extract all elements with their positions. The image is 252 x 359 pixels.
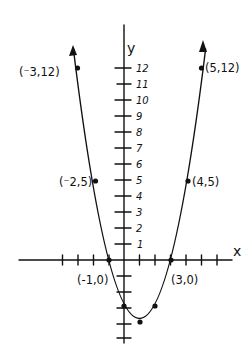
y-axis-label: y bbox=[127, 40, 135, 56]
svg-text:3: 3 bbox=[136, 207, 142, 218]
svg-text:11: 11 bbox=[136, 79, 149, 90]
label-5-12: (5,12) bbox=[205, 61, 240, 75]
label-4-5: (4,5) bbox=[192, 175, 219, 189]
label-m3-12: (⁻3,12) bbox=[19, 65, 60, 79]
label-m2-5: (⁻2,5) bbox=[59, 175, 92, 189]
svg-text:10: 10 bbox=[136, 95, 149, 106]
y-axis-ticks bbox=[115, 68, 131, 338]
point-5-12 bbox=[199, 65, 204, 70]
arrow-left-icon bbox=[69, 45, 77, 56]
svg-text:12: 12 bbox=[136, 63, 149, 74]
svg-text:7: 7 bbox=[136, 143, 143, 154]
point-4-5 bbox=[185, 178, 190, 183]
point-0-m3 bbox=[121, 303, 126, 308]
point-m1-0 bbox=[106, 257, 111, 262]
y-tick-labels: 12 11 10 9 8 7 6 5 4 3 2 1 bbox=[136, 63, 149, 250]
svg-text:2: 2 bbox=[136, 223, 142, 234]
point-m3-12 bbox=[75, 65, 80, 70]
parabola-graph: y x 12 11 10 9 8 7 6 5 4 3 2 1 (⁻3,12) (… bbox=[0, 0, 252, 359]
point-2-m3 bbox=[152, 303, 157, 308]
svg-text:8: 8 bbox=[136, 127, 142, 138]
label-m1-0: (-1,0) bbox=[77, 273, 108, 287]
svg-text:9: 9 bbox=[136, 111, 142, 122]
svg-text:6: 6 bbox=[136, 159, 142, 170]
x-axis-label: x bbox=[233, 243, 241, 259]
point-m2-5 bbox=[93, 178, 98, 183]
point-3-0 bbox=[168, 257, 173, 262]
label-3-0: (3,0) bbox=[171, 273, 198, 287]
point-1-m4 bbox=[137, 319, 142, 324]
svg-text:4: 4 bbox=[136, 191, 142, 202]
arrow-right-icon bbox=[199, 40, 207, 52]
svg-text:1: 1 bbox=[137, 239, 143, 250]
curve-arrows bbox=[69, 40, 207, 56]
svg-text:5: 5 bbox=[136, 175, 142, 186]
